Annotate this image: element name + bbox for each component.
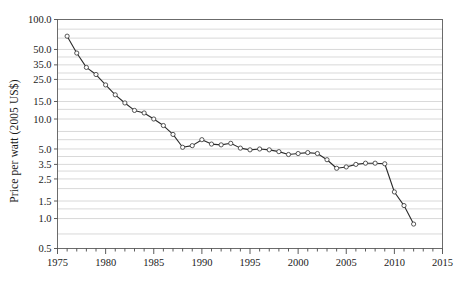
data-point-marker xyxy=(286,152,290,156)
x-tick-label: 1980 xyxy=(95,257,116,268)
data-point-marker xyxy=(373,161,377,165)
data-point-marker xyxy=(296,151,300,155)
x-tick-label: 1985 xyxy=(143,257,164,268)
data-point-marker xyxy=(161,123,165,127)
data-point-marker xyxy=(325,158,329,162)
data-point-marker xyxy=(392,190,396,194)
y-tick-label: 1.5 xyxy=(38,196,51,207)
x-tick-label: 1975 xyxy=(47,257,68,268)
data-point-marker xyxy=(190,144,194,148)
y-tick-label: 25.0 xyxy=(33,74,51,85)
data-point-marker xyxy=(354,162,358,166)
data-point-marker xyxy=(113,93,117,97)
data-point-marker xyxy=(258,147,262,151)
data-point-marker xyxy=(344,165,348,169)
data-point-marker xyxy=(363,161,367,165)
data-point-marker xyxy=(123,101,127,105)
data-point-marker xyxy=(229,141,233,145)
data-point-marker xyxy=(277,150,281,154)
x-tick-label: 1995 xyxy=(240,257,261,268)
y-tick-label: 100.0 xyxy=(28,14,52,25)
y-tick-label: 2.5 xyxy=(38,174,51,185)
data-point-marker xyxy=(238,146,242,150)
y-tick-label: 10.0 xyxy=(33,114,51,125)
data-point-marker xyxy=(181,145,185,149)
y-tick-label: 3.5 xyxy=(38,159,51,170)
x-tick-label: 2015 xyxy=(432,257,453,268)
data-point-marker xyxy=(94,72,98,76)
data-point-marker xyxy=(65,34,69,38)
x-tick-label: 2005 xyxy=(336,257,357,268)
data-point-marker xyxy=(335,166,339,170)
solar-price-chart: Price per watt (2005 US$) 100.050.035.02… xyxy=(0,0,463,282)
data-point-marker xyxy=(412,222,416,226)
data-point-marker xyxy=(306,150,310,154)
data-point-marker xyxy=(267,148,271,152)
series-line-price-per-watt xyxy=(67,36,414,224)
data-point-marker xyxy=(219,143,223,147)
y-tick-label: 15.0 xyxy=(33,96,51,107)
data-point-marker xyxy=(84,65,88,69)
data-point-marker xyxy=(132,108,136,112)
data-point-marker xyxy=(142,111,146,115)
y-tick-label: 50.0 xyxy=(33,44,51,55)
y-tick-label: 35.0 xyxy=(33,59,51,70)
y-tick-label: 5.0 xyxy=(38,144,51,155)
y-tick-label: 0.5 xyxy=(38,243,51,254)
data-point-marker xyxy=(75,51,79,55)
y-tick-label: 1.0 xyxy=(38,213,51,224)
data-point-marker xyxy=(209,142,213,146)
data-point-marker xyxy=(402,203,406,207)
x-tick-label: 2010 xyxy=(384,257,405,268)
data-point-marker xyxy=(171,132,175,136)
x-tick-label: 1990 xyxy=(191,257,212,268)
chart-plot-area: 100.050.035.025.015.010.05.03.52.51.51.0… xyxy=(0,0,463,282)
data-point-marker xyxy=(104,83,108,87)
plot-frame xyxy=(58,20,443,249)
data-point-marker xyxy=(200,138,204,142)
x-tick-label: 2000 xyxy=(288,257,309,268)
data-point-marker xyxy=(152,117,156,121)
data-point-marker xyxy=(383,162,387,166)
data-point-marker xyxy=(248,148,252,152)
data-point-marker xyxy=(315,151,319,155)
